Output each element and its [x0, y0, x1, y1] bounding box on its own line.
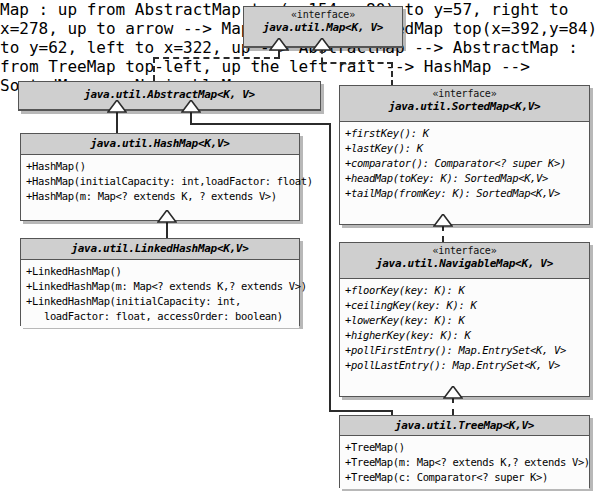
member-row: +lowerKey(key: K): K [345, 313, 584, 328]
class-header-linkedhashmap: java.util.LinkedHashMap<K,V> [21, 239, 299, 260]
arrowhead-treemap-to-abstractmap [181, 100, 201, 113]
class-name-sortedmap: java.util.SortedMap<K,V> [344, 100, 585, 113]
class-box-abstractmap[interactable]: java.util.AbstractMap<K, V> [18, 81, 321, 111]
class-header-sortedmap: «interface» java.util.SortedMap<K,V> [340, 86, 589, 122]
class-name-map: java.util.Map<K, V> [248, 21, 398, 34]
class-name-treemap: java.util.TreeMap<K,V> [344, 419, 585, 432]
edge-abstractmap-to-map-seg1 [153, 57, 155, 81]
member-row: +headMap(toKey: K): SortedMap<K,V> [345, 171, 584, 186]
arrowhead-sortedmap-to-map [312, 38, 332, 51]
member-row: +floorKey(key: K): K [345, 283, 584, 298]
stereotype-navigablemap: «interface» [344, 245, 585, 257]
class-header-treemap: java.util.TreeMap<K,V> [340, 416, 589, 436]
member-row: +HashMap() [26, 159, 294, 174]
class-header-hashmap: java.util.HashMap<K,V> [21, 134, 299, 155]
edge-treemap-to-abstractmap-seg2 [329, 410, 393, 412]
edge-abstractmap-to-map-seg2 [153, 57, 280, 59]
class-box-treemap[interactable]: java.util.TreeMap<K,V> +TreeMap() +TreeM… [339, 415, 590, 488]
member-row: +pollFirstEntry(): Map.EntrySet<K, V> [345, 343, 584, 358]
member-row: +HashMap(initialCapacity: int,loadFactor… [26, 174, 294, 189]
class-header-navigablemap: «interface» java.util.NavigableMap<K, V> [340, 243, 589, 279]
member-row: +higherKey(key: K): K [345, 328, 584, 343]
member-row: +tailMap(fromKey: K): SortedMap<K,V> [345, 186, 584, 201]
member-row: +firstKey(): K [345, 126, 584, 141]
class-name-abstractmap: java.util.AbstractMap<K, V> [23, 88, 316, 101]
stereotype-sortedmap: «interface» [344, 88, 585, 100]
arrowhead-navigablemap-to-sortedmap [433, 214, 453, 227]
edge-treemap-to-abstractmap-seg4 [190, 123, 331, 125]
edge-treemap-to-navigablemap [452, 397, 454, 415]
member-row: +TreeMap(c: Comparator<? super K>) [345, 470, 584, 485]
class-box-navigablemap[interactable]: «interface» java.util.NavigableMap<K, V>… [339, 242, 590, 397]
arrowhead-abstractmap-to-map [269, 38, 289, 51]
edge-treemap-to-abstractmap-seg3 [329, 124, 331, 411]
arrowhead-hashmap-to-abstractmap [107, 100, 127, 113]
member-row: +comparator(): Comparator<? super K>) [345, 156, 584, 171]
class-header-abstractmap: java.util.AbstractMap<K, V> [19, 82, 320, 110]
uml-diagram-canvas: Map : up from AbstractMap top(x=154,y=80… [0, 0, 607, 495]
edge-navigablemap-to-sortedmap [442, 225, 444, 242]
member-row: +TreeMap(m: Map<? extends K,? extends V>… [345, 455, 584, 470]
class-members-navigablemap: +floorKey(key: K): K +ceilingKey(key: K)… [340, 279, 589, 376]
member-row: +lastKey(): K [345, 141, 584, 156]
class-members-hashmap: +HashMap() +HashMap(initialCapacity: int… [21, 155, 299, 208]
class-box-sortedmap[interactable]: «interface» java.util.SortedMap<K,V> +fi… [339, 85, 590, 225]
arrowhead-treemap-to-navigablemap [443, 386, 463, 399]
edge-sortedmap-to-map-seg1 [391, 62, 393, 86]
class-box-hashmap[interactable]: java.util.HashMap<K,V> +HashMap() +HashM… [20, 133, 300, 221]
member-row: +TreeMap() [345, 440, 584, 455]
member-row: +HashMap(m: Map<? extends K, ? extends V… [26, 189, 294, 204]
member-row: +pollLastEntry(): Map.EntrySet<K, V> [345, 358, 584, 373]
edge-linkedhashmap-to-hashmap [166, 221, 168, 238]
member-row: +LinkedHashMap() [26, 264, 294, 279]
edge-hashmap-to-abstractmap [116, 111, 118, 133]
class-name-navigablemap: java.util.NavigableMap<K, V> [344, 257, 585, 270]
class-name-hashmap: java.util.HashMap<K,V> [25, 137, 295, 150]
class-box-linkedhashmap[interactable]: java.util.LinkedHashMap<K,V> +LinkedHash… [20, 238, 300, 326]
class-members-linkedhashmap: +LinkedHashMap() +LinkedHashMap(m: Map<?… [21, 260, 299, 328]
class-members-sortedmap: +firstKey(): K +lastKey(): K +comparator… [340, 122, 589, 205]
stereotype-map: «interface» [248, 9, 398, 21]
class-name-linkedhashmap: java.util.LinkedHashMap<K,V> [25, 242, 295, 255]
member-row: +LinkedHashMap(initialCapacity: int, loa… [26, 294, 294, 324]
member-row: +ceilingKey(key: K): K [345, 298, 584, 313]
class-members-treemap: +TreeMap() +TreeMap(m: Map<? extends K,?… [340, 436, 589, 489]
arrowhead-linkedhashmap-to-hashmap [157, 210, 177, 223]
edge-sortedmap-to-map-seg2 [321, 62, 393, 64]
member-row: +LinkedHashMap(m: Map<? extends K,? exte… [26, 279, 294, 294]
